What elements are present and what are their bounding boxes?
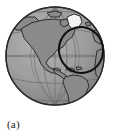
- globe-svg: [5, 3, 105, 111]
- figure-panel: (a): [0, 0, 119, 140]
- figure-caption: (a): [7, 117, 20, 131]
- land-cuba: [76, 67, 82, 70]
- globe-figure: [5, 3, 105, 111]
